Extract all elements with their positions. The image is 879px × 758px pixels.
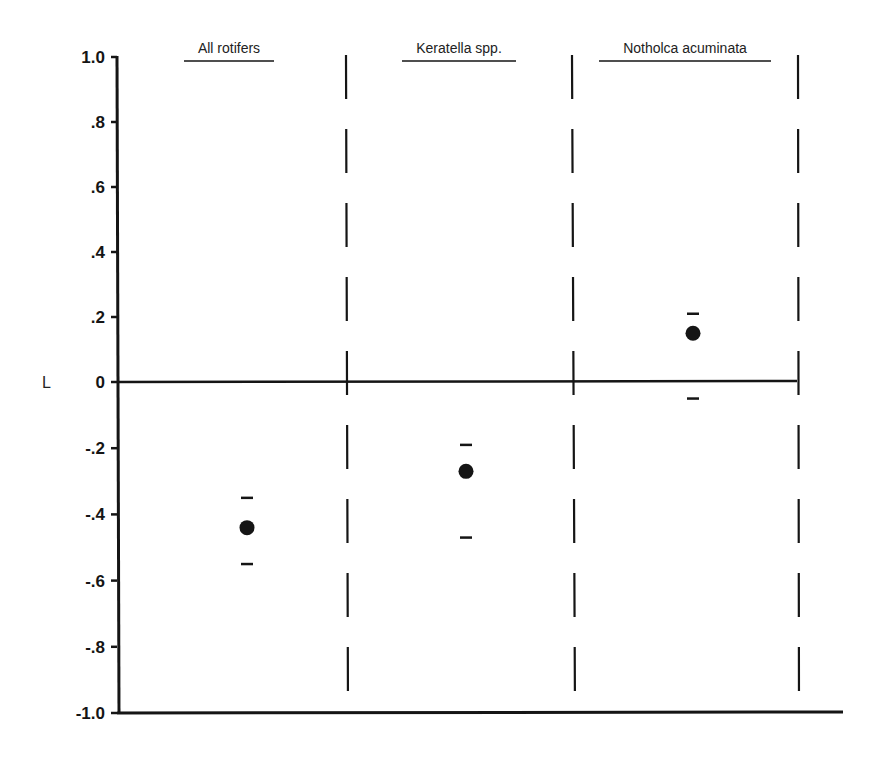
panel-separator (346, 55, 348, 713)
zero-line (117, 381, 797, 382)
y-tick-label: -.2 (85, 439, 105, 458)
mean-point (459, 464, 474, 479)
panel-title: Notholca acuminata (623, 40, 747, 56)
data-points (240, 314, 701, 564)
mean-point (240, 520, 255, 535)
panel-title: Keratella spp. (416, 40, 502, 56)
y-tick-label: .8 (91, 113, 105, 132)
y-tick-label: .2 (91, 308, 105, 327)
y-axis-line (117, 56, 119, 713)
y-tick-label: .6 (91, 178, 105, 197)
panel-title: All rotifers (198, 40, 260, 56)
y-tick-label: -.6 (85, 572, 105, 591)
panel-separator (798, 55, 799, 713)
y-tick-label: .4 (91, 243, 106, 262)
panel-titles: All rotifersKeratella spp.Notholca acumi… (184, 40, 771, 61)
y-tick-label: -.8 (85, 638, 105, 657)
mean-point (686, 326, 701, 341)
x-axis (117, 381, 843, 713)
panel-separators (346, 55, 799, 713)
y-tick-label: 1.0 (81, 48, 105, 67)
y-axis-label: L (42, 374, 51, 391)
chart: 1.0.8.6.4.20-.2-.4-.6-.8-1.0 All rotifer… (0, 0, 879, 758)
x-axis-line (117, 712, 843, 713)
y-tick-label: -.4 (85, 505, 105, 524)
y-tick-label: 0 (96, 373, 105, 392)
y-axis: 1.0.8.6.4.20-.2-.4-.6-.8-1.0 (76, 48, 119, 723)
panel-separator (572, 55, 575, 713)
y-tick-label: -1.0 (76, 704, 105, 723)
